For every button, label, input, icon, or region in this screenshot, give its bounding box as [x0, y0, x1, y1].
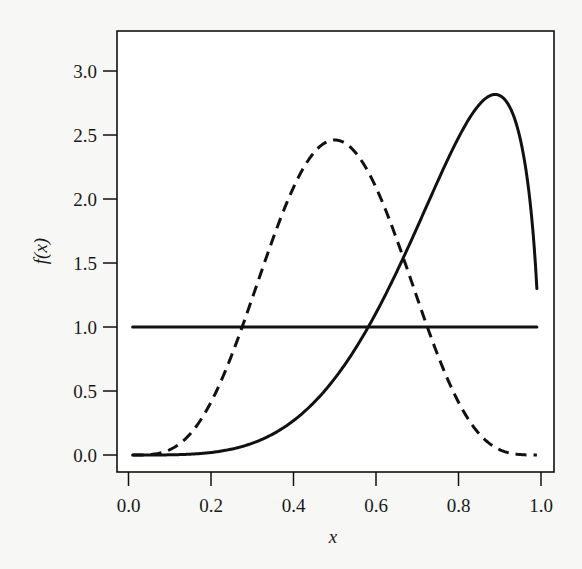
y-axis-label: f(x): [30, 238, 52, 264]
x-axis-label: x: [328, 526, 338, 547]
y-tick-label: 3.0: [73, 61, 97, 82]
chart: 0.00.51.01.52.02.53.0 0.00.20.40.60.81.0…: [0, 0, 582, 569]
y-tick-label: 0.5: [73, 381, 97, 402]
y-tick-label: 1.0: [73, 317, 97, 338]
x-tick-label: 0.4: [282, 495, 306, 516]
x-tick-label: 0.0: [117, 495, 141, 516]
y-tick-label: 0.0: [73, 445, 97, 466]
y-axis: 0.00.51.01.52.02.53.0: [73, 61, 117, 466]
x-tick-label: 0.6: [364, 495, 388, 516]
x-tick-label: 0.8: [447, 495, 471, 516]
x-tick-label: 1.0: [529, 495, 553, 516]
x-axis: 0.00.20.40.60.81.0: [117, 472, 553, 516]
y-tick-label: 2.5: [73, 125, 97, 146]
y-tick-label: 1.5: [73, 253, 97, 274]
x-tick-label: 0.2: [199, 495, 223, 516]
y-tick-label: 2.0: [73, 189, 97, 210]
